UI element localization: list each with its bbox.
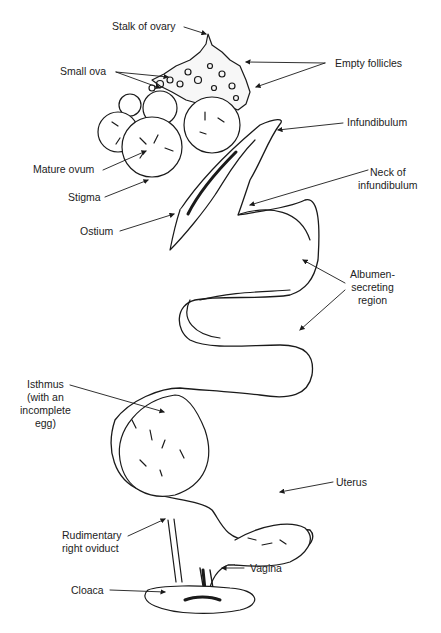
label-small-ova: Small ova xyxy=(60,65,106,78)
label-albumen-secreting-region: Albumen- secreting region xyxy=(350,268,395,307)
ovary xyxy=(98,34,250,177)
label-isthmus-line1: Isthmus xyxy=(20,378,71,391)
oviduct xyxy=(111,120,319,595)
label-isthmus-line3: incomplete xyxy=(20,404,71,417)
label-cloaca: Cloaca xyxy=(71,584,104,597)
label-rudimentary-line2: right oviduct xyxy=(62,542,122,555)
label-stigma: Stigma xyxy=(68,191,101,204)
label-infundibulum: Infundibulum xyxy=(347,116,407,129)
label-stalk-of-ovary: Stalk of ovary xyxy=(112,20,176,33)
label-albumen-line3: region xyxy=(350,294,395,307)
label-neck-line2: infundibulum xyxy=(358,179,418,192)
label-albumen-line2: secreting xyxy=(350,281,395,294)
label-albumen-line1: Albumen- xyxy=(350,268,395,281)
label-isthmus: Isthmus (with an incomplete egg) xyxy=(20,378,71,430)
label-isthmus-line4: egg) xyxy=(20,417,71,430)
label-rudimentary-line1: Rudimentary xyxy=(62,529,122,542)
label-vagina: Vagina xyxy=(250,562,282,575)
label-mature-ovum: Mature ovum xyxy=(33,163,94,176)
label-uterus: Uterus xyxy=(336,476,367,489)
label-neck-of-infundibulum: Neck of infundibulum xyxy=(358,166,418,192)
label-neck-line1: Neck of xyxy=(358,166,418,179)
label-ostium: Ostium xyxy=(80,225,113,238)
label-empty-follicles: Empty follicles xyxy=(335,57,402,70)
label-rudimentary-right-oviduct: Rudimentary right oviduct xyxy=(62,529,122,555)
cloaca-region xyxy=(145,519,255,613)
label-isthmus-line2: (with an xyxy=(20,391,71,404)
